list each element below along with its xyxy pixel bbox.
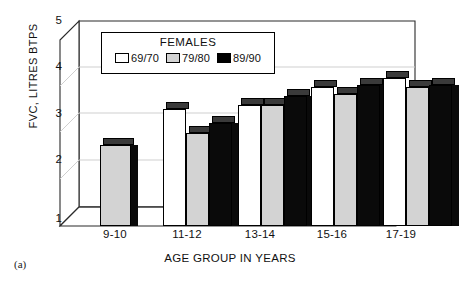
bar-face <box>163 109 186 226</box>
bar-15-16-79-80 <box>334 0 357 226</box>
bar-face <box>284 96 307 226</box>
bar-17-19-69-70 <box>383 0 406 226</box>
bar-side <box>452 85 459 226</box>
bar-top <box>432 78 455 85</box>
legend-label-69-70: 69/70 <box>131 52 159 64</box>
panel-label: (a) <box>14 258 26 270</box>
bar-face <box>429 85 452 226</box>
bar-face <box>209 123 232 226</box>
x-axis-title: AGE GROUP IN YEARS <box>60 252 400 264</box>
bar-face <box>357 85 380 226</box>
bar-top <box>103 138 134 145</box>
bar-17-19-79-80 <box>406 0 429 226</box>
bar-face <box>334 94 357 226</box>
x-tick-17-19: 17-19 <box>366 228 436 240</box>
legend-swatch-grey-icon <box>166 53 180 63</box>
x-tick-11-12: 11-12 <box>152 228 222 240</box>
legend-item-89-90[interactable]: 89/90 <box>217 52 261 64</box>
x-tick-9-10: 9-10 <box>80 228 150 240</box>
legend-swatch-white-icon <box>115 53 129 63</box>
bar-top <box>360 78 383 85</box>
bar-side <box>131 145 138 226</box>
x-tick-15-16: 15-16 <box>297 228 367 240</box>
bar-15-16-89-90 <box>357 0 380 226</box>
legend-item-79-80[interactable]: 79/80 <box>166 52 210 64</box>
legend-label-79-80: 79/80 <box>182 52 210 64</box>
x-tick-13-14: 13-14 <box>225 228 295 240</box>
bar-13-14-89-90 <box>284 0 307 226</box>
bar-face <box>238 105 261 226</box>
bar-top <box>287 89 310 96</box>
bar-17-19-89-90 <box>429 0 452 226</box>
legend-label-89-90: 89/90 <box>233 52 261 64</box>
bar-face <box>186 133 209 226</box>
legend-item-69-70[interactable]: 69/70 <box>115 52 159 64</box>
bar-face <box>406 87 429 226</box>
legend-title: FEMALES <box>102 36 274 48</box>
bar-15-16-69-70 <box>311 0 334 226</box>
legend-swatch-black-icon <box>217 53 231 63</box>
bar-face <box>311 87 334 226</box>
bar-top <box>212 116 235 123</box>
legend: FEMALES 69/70 79/80 89/90 <box>101 32 275 74</box>
legend-items: 69/70 79/80 89/90 <box>102 52 274 64</box>
bar-face <box>100 145 131 226</box>
bar-face <box>261 105 284 226</box>
bar-face <box>383 78 406 226</box>
